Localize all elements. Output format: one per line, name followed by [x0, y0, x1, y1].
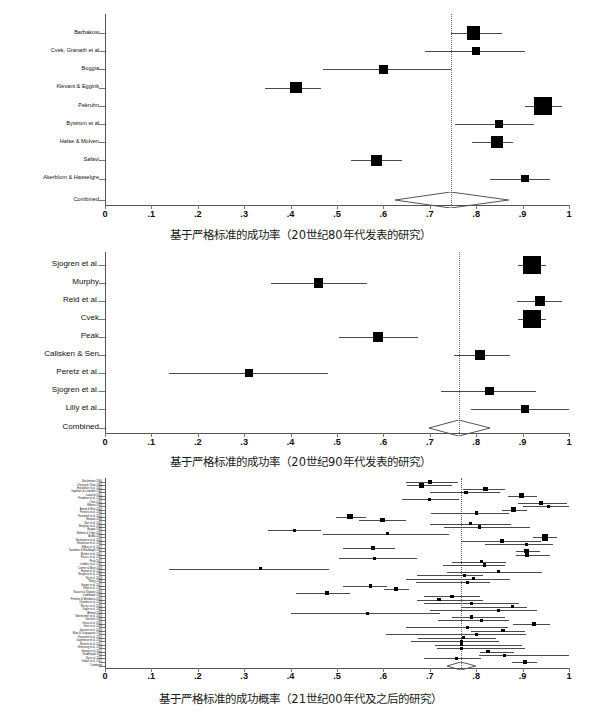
x-tick-label: .4	[277, 671, 305, 681]
study-marker	[475, 633, 478, 636]
y-tick	[99, 391, 105, 392]
study-marker	[478, 525, 481, 528]
study-marker	[500, 539, 504, 543]
x-tick-label: .2	[184, 671, 212, 681]
confidence-interval-line	[471, 409, 569, 410]
confidence-interval-line	[406, 482, 458, 483]
study-marker	[462, 636, 465, 639]
confidence-interval-line	[444, 527, 530, 528]
study-label: Peretz et al.	[56, 367, 99, 377]
confidence-interval-line	[417, 600, 483, 601]
y-tick	[99, 265, 105, 266]
study-marker	[463, 574, 466, 577]
x-tick-label: .9	[509, 671, 537, 681]
study-marker	[347, 514, 352, 519]
confidence-interval-line	[479, 655, 569, 656]
confidence-interval-line	[343, 586, 388, 587]
study-marker	[373, 332, 383, 342]
study-marker	[535, 296, 545, 306]
x-tick-label: 0	[91, 437, 119, 447]
plot-area-2000s: 0.1.2.3.4.5.6.7.8.91Brushmann 2000Cheung…	[0, 0, 601, 250]
study-marker	[386, 532, 389, 535]
study-marker	[455, 657, 458, 660]
confidence-interval-line	[343, 548, 395, 549]
confidence-interval-line	[386, 634, 527, 635]
x-tick-label: .5	[323, 671, 351, 681]
confidence-interval-line	[418, 638, 495, 639]
x-tick-label: .4	[277, 437, 305, 447]
study-marker	[485, 387, 494, 396]
study-marker	[371, 546, 375, 550]
study-marker	[523, 310, 541, 328]
confidence-interval-line	[424, 658, 481, 659]
study-marker	[480, 619, 483, 622]
confidence-interval-line	[411, 641, 499, 642]
study-marker	[428, 480, 432, 484]
x-tick-label: .8	[462, 437, 490, 447]
study-marker	[503, 654, 506, 657]
x-tick-label: 1	[555, 671, 583, 681]
study-marker	[483, 563, 486, 566]
study-marker	[428, 498, 431, 501]
confidence-interval-line	[169, 569, 329, 570]
x-tick-label: .7	[416, 437, 444, 447]
study-marker	[450, 595, 453, 598]
study-marker	[460, 647, 463, 650]
x-tick-label: .6	[369, 671, 397, 681]
study-marker	[245, 369, 253, 377]
study-marker	[542, 534, 548, 540]
x-tick-label: .1	[137, 437, 165, 447]
x-tick-label: .3	[230, 671, 258, 681]
study-label: Reid et al.	[63, 295, 99, 305]
study-marker	[483, 487, 488, 492]
combined-diamond	[447, 662, 476, 670]
y-tick	[99, 319, 105, 320]
study-marker	[523, 660, 527, 664]
y-tick	[99, 301, 105, 302]
study-marker	[380, 518, 384, 522]
confidence-interval-line	[485, 544, 553, 545]
study-marker	[523, 256, 541, 274]
study-marker	[419, 483, 423, 487]
x-tick-label: .8	[462, 671, 490, 681]
x-tick-label: .3	[230, 437, 258, 447]
confidence-interval-line	[296, 593, 350, 594]
caption-2000s: 基于严格标准的成功概率（21世纪00年代及之后的研究）	[0, 690, 601, 706]
study-marker	[486, 650, 490, 654]
confidence-interval-line	[406, 627, 508, 628]
study-marker	[259, 567, 262, 570]
x-tick-label: 0	[91, 671, 119, 681]
x-tick-label: .9	[509, 437, 537, 447]
study-marker	[497, 609, 500, 612]
study-marker	[475, 350, 485, 360]
study-marker	[547, 505, 550, 508]
study-marker	[511, 605, 514, 608]
study-marker	[460, 640, 463, 643]
study-marker	[466, 581, 469, 584]
study-label: Calisken & Sen	[44, 349, 99, 359]
study-marker	[466, 626, 469, 629]
combined-diamond	[429, 420, 490, 436]
study-marker	[539, 501, 543, 505]
study-marker	[532, 622, 536, 626]
study-marker	[519, 493, 524, 498]
study-label: Murphy	[72, 277, 99, 287]
study-label: Sjogren et al.	[52, 259, 99, 269]
study-marker	[293, 529, 296, 532]
y-tick	[99, 373, 105, 374]
study-marker	[525, 543, 528, 546]
confidence-interval-line	[406, 579, 510, 580]
y-tick	[99, 283, 105, 284]
forest-plot-figure: 0.1.2.3.4.5.6.7.8.91BarbakowCvek, Granat…	[0, 0, 601, 718]
y-tick	[99, 355, 105, 356]
study-marker	[521, 405, 529, 413]
study-label: Peak	[81, 331, 99, 341]
confidence-interval-line	[407, 485, 452, 486]
confidence-interval-line	[435, 645, 521, 646]
x-tick-label: .1	[137, 671, 165, 681]
confidence-interval-line	[437, 648, 525, 649]
confidence-interval-line	[461, 607, 527, 608]
x-tick-label: .7	[416, 671, 444, 681]
study-label: Cvek	[81, 313, 99, 323]
confidence-interval-line	[452, 617, 505, 618]
